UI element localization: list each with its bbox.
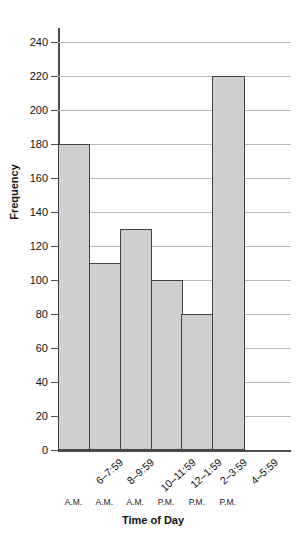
x-tick-label: 8–9:59	[125, 456, 157, 486]
bar	[212, 76, 244, 450]
y-tick-label: 160	[30, 172, 48, 184]
y-axis-title: Frequency	[8, 127, 20, 257]
bar	[120, 229, 152, 450]
bar-series	[58, 42, 291, 450]
y-tick-mark	[51, 42, 58, 43]
x-tick-meridiem-label: P.M.	[158, 497, 174, 507]
y-tick-mark	[51, 450, 58, 451]
x-tick-label: 6–7:59	[94, 456, 126, 486]
y-tick-mark	[51, 416, 58, 417]
x-tick-label: 2–3:59	[217, 456, 249, 486]
x-tick-meridiem-label: A.M.	[126, 497, 143, 507]
y-tick-label: 140	[30, 206, 48, 218]
x-tick-meridiem-label: P.M.	[220, 497, 236, 507]
y-tick-label: 120	[30, 240, 48, 252]
y-tick-label: 220	[30, 70, 48, 82]
y-tick-mark	[51, 178, 58, 179]
y-tick-mark	[51, 212, 58, 213]
y-tick-label: 40	[36, 376, 48, 388]
bar	[181, 314, 213, 450]
histogram-chart: Frequency 020406080100120140160180200220…	[0, 0, 306, 534]
plot-area: 020406080100120140160180200220240	[58, 42, 291, 450]
x-axis-title: Time of Day	[0, 514, 306, 526]
x-axis-line	[58, 450, 291, 452]
y-tick-label: 100	[30, 274, 48, 286]
bar	[89, 263, 121, 450]
y-tick-mark	[51, 382, 58, 383]
y-tick-label: 20	[36, 410, 48, 422]
y-tick-label: 180	[30, 138, 48, 150]
x-tick-label: 10–11:59	[158, 456, 198, 494]
y-tick-mark	[51, 144, 58, 145]
y-tick-mark	[51, 348, 58, 349]
y-tick-mark	[51, 246, 58, 247]
y-tick-mark	[51, 110, 58, 111]
x-tick-meridiem-label: P.M.	[189, 497, 205, 507]
y-tick-label: 240	[30, 36, 48, 48]
bar	[151, 280, 183, 450]
y-tick-mark	[51, 76, 58, 77]
bar	[58, 144, 90, 450]
x-tick-label: 4–5:59	[248, 456, 280, 486]
y-tick-label: 80	[36, 308, 48, 320]
y-tick-label: 200	[30, 104, 48, 116]
y-tick-mark	[51, 280, 58, 281]
x-tick-meridiem-label: A.M.	[65, 497, 82, 507]
y-tick-label: 60	[36, 342, 48, 354]
x-tick-meridiem-label: A.M.	[96, 497, 113, 507]
y-tick-mark	[51, 314, 58, 315]
y-tick-label: 0	[42, 444, 48, 456]
